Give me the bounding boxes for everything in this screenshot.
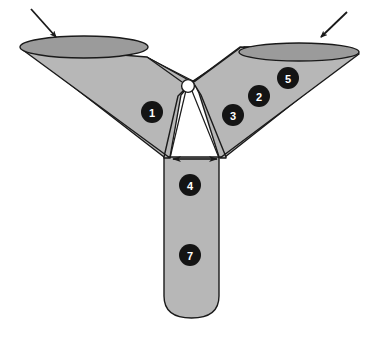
marker-circle-2[interactable] (248, 85, 270, 107)
marker-circle-1[interactable] (141, 101, 163, 123)
marker-circle-7[interactable] (179, 244, 201, 266)
marker-circle-4[interactable] (179, 174, 201, 196)
right-inlet-opening (239, 43, 359, 61)
marker-circle-3[interactable] (222, 104, 244, 126)
marker-circle-5[interactable] (277, 67, 299, 89)
marker-group-1[interactable]: 1 (141, 101, 163, 123)
figure-root: 1 2 3 4 5 7 (0, 0, 378, 338)
marker-group-5[interactable]: 5 (277, 67, 299, 89)
marker-group-3[interactable]: 3 (222, 104, 244, 126)
marker-group-4[interactable]: 4 (179, 174, 201, 196)
marker-group-7[interactable]: 7 (179, 244, 201, 266)
funnel-diagram-canvas: 1 2 3 4 5 7 (0, 0, 378, 338)
marker-group-2[interactable]: 2 (248, 85, 270, 107)
left-inlet-opening (20, 36, 148, 58)
bifurcation-junction-node (182, 80, 195, 93)
